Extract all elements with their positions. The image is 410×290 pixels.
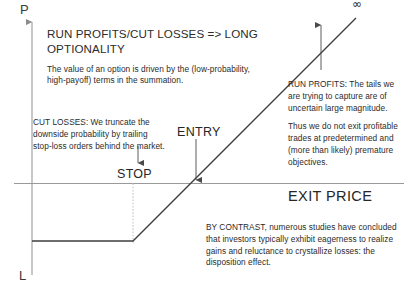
- vertical-axis-bottom-label: L: [19, 268, 26, 283]
- annotation-run-profits-body-1: RUN PROFITS: The tails we are trying to …: [288, 79, 406, 114]
- stop-marker-label: STOP: [117, 167, 152, 181]
- annotation-by-contrast: BY CONTRAST, numerous studies have concl…: [206, 222, 406, 269]
- annotation-long-optionality-heading: RUN PROFITS/CUT LOSSES => LONG OPTIONALI…: [47, 26, 262, 57]
- infinity-symbol: ∞: [352, 0, 362, 10]
- annotation-long-optionality-body: The value of an option is driven by the …: [47, 64, 262, 88]
- horizontal-axis-label: EXIT PRICE: [288, 188, 372, 204]
- annotation-cut-losses-body: CUT LOSSES: We truncate the downside pro…: [33, 117, 165, 152]
- vertical-axis-top-label: P: [20, 2, 29, 17]
- annotation-by-contrast-body: BY CONTRAST, numerous studies have concl…: [206, 222, 406, 269]
- annotation-long-optionality: RUN PROFITS/CUT LOSSES => LONG OPTIONALI…: [47, 26, 262, 87]
- annotation-run-profits: RUN PROFITS: The tails we are trying to …: [288, 79, 406, 168]
- annotation-run-profits-body-2: Thus we do not exit profitable trades at…: [288, 121, 406, 168]
- entry-marker-label: ENTRY: [177, 125, 221, 139]
- annotation-cut-losses: CUT LOSSES: We truncate the downside pro…: [33, 117, 165, 152]
- payoff-diagram-figure: P L EXIT PRICE ∞ STOP ENTRY RUN PROFITS/…: [0, 0, 410, 290]
